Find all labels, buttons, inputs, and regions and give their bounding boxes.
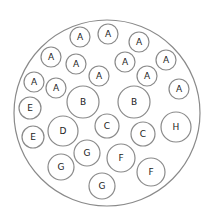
circle-a: A [156, 50, 176, 70]
circle-a: A [89, 66, 109, 86]
circle-label: A [31, 77, 38, 87]
circle-a: A [46, 78, 66, 98]
circle-e: E [19, 97, 41, 119]
circle-a: A [41, 47, 61, 67]
circle-label: C [140, 129, 146, 139]
circle-label: F [118, 153, 123, 163]
circle-d: D [48, 116, 78, 146]
circle-label: D [60, 126, 67, 136]
circle-a: A [66, 54, 86, 74]
circle-label: A [105, 29, 112, 39]
circle-label: A [48, 52, 55, 62]
circle-f: F [107, 144, 135, 172]
circle-label: G [99, 181, 106, 191]
circle-label: A [122, 57, 129, 67]
circle-h: H [161, 112, 191, 142]
circle-label: A [53, 83, 60, 93]
circle-label: A [144, 71, 151, 81]
circle-b: B [118, 86, 150, 118]
circle-label: H [173, 122, 180, 132]
circle-label: F [148, 167, 153, 177]
circle-f: F [137, 158, 165, 186]
circle-label: E [30, 132, 36, 142]
circle-b: B [67, 86, 99, 118]
circle-packing-diagram: AAAAAAAAAAAABBEEDCCHGGFFG [0, 0, 207, 216]
circle-label: E [27, 103, 33, 113]
circle-label: A [176, 84, 183, 94]
circle-label: A [77, 32, 84, 42]
circle-a: A [169, 79, 189, 99]
circle-g: G [48, 154, 74, 180]
circle-c: C [95, 114, 119, 138]
circle-label: A [96, 71, 103, 81]
circle-g: G [89, 173, 115, 199]
circle-label: B [80, 97, 86, 107]
circle-a: A [129, 32, 149, 52]
circle-c: C [131, 122, 155, 146]
circle-label: G [58, 162, 65, 172]
circle-label: A [73, 59, 80, 69]
circle-a: A [98, 24, 118, 44]
circle-a: A [137, 66, 157, 86]
circle-label: G [84, 148, 91, 158]
circle-a: A [115, 52, 135, 72]
circle-label: A [136, 37, 143, 47]
circle-e: E [22, 126, 44, 148]
circle-a: A [70, 27, 90, 47]
circle-a: A [24, 72, 44, 92]
circle-label: A [163, 55, 170, 65]
circle-label: C [104, 121, 110, 131]
circle-label: B [131, 97, 137, 107]
circle-g: G [74, 140, 100, 166]
